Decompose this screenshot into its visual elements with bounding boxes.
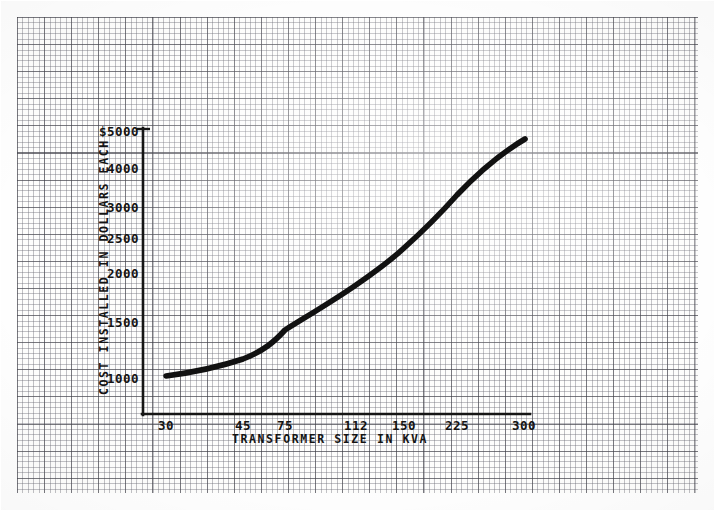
x-tick-label: 112 [336, 418, 376, 433]
cost-curve [166, 139, 525, 376]
chart-page: $5000 4000 3000 2500 2000 1500 1000 30 4… [0, 0, 715, 511]
x-tick-label: 300 [504, 418, 544, 433]
x-axis-title: TRANSFORMER SIZE IN KVA [232, 432, 428, 446]
x-tick-label: 45 [223, 418, 263, 433]
x-tick-label: 150 [384, 418, 424, 433]
y-tick-label: $5000 [99, 124, 139, 139]
x-tick-label: 30 [146, 418, 186, 433]
y-axis-title: COST INSTALLED IN DOLLARS EACH [97, 139, 111, 395]
x-tick-label: 75 [265, 418, 305, 433]
x-tick-label: 225 [437, 418, 477, 433]
